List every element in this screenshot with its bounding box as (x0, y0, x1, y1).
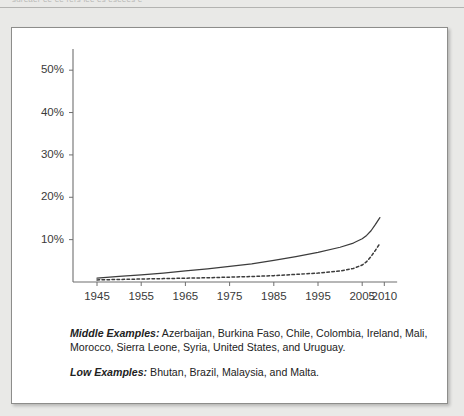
y-tick-label: 40% (20, 106, 64, 118)
figure-card: 10%20%30%40%50% 194519551965197519851995… (11, 27, 448, 404)
x-tick-label: 1945 (75, 290, 119, 302)
x-tick-label: 1985 (252, 290, 296, 302)
chart-plot-area: 10%20%30%40%50% 194519551965197519851995… (12, 28, 449, 318)
page-top-divider (0, 7, 464, 8)
caption-middle-examples: Middle Examples: Azerbaijan, Burkina Fas… (70, 326, 430, 354)
x-tick-label: 1975 (208, 290, 252, 302)
caption-low-examples: Low Examples: Bhutan, Brazil, Malaysia, … (70, 365, 430, 379)
caption-middle-lead: Middle Examples: (70, 327, 159, 339)
x-tick-label: 1965 (163, 290, 207, 302)
figure-captions: Middle Examples: Azerbaijan, Burkina Fas… (70, 326, 430, 380)
caption-low-lead: Low Examples: (70, 366, 147, 378)
series-line-middle (97, 218, 380, 279)
x-tick-label: 1995 (296, 290, 340, 302)
x-tick-label: 2010 (362, 290, 406, 302)
y-tick-label: 20% (20, 190, 64, 202)
page-top-cutoff-text: sdreaer ee ee rers iee es eseees e (0, 0, 464, 7)
y-tick-label: 30% (20, 148, 64, 160)
y-tick-label: 50% (20, 63, 64, 75)
y-tick-label: 10% (20, 233, 64, 245)
caption-low-body: Bhutan, Brazil, Malaysia, and Malta. (147, 366, 319, 378)
x-tick-label: 1955 (119, 290, 163, 302)
figure-page: sdreaer ee ee rers iee es eseees e 10%20… (0, 0, 464, 416)
line-chart (12, 28, 449, 318)
